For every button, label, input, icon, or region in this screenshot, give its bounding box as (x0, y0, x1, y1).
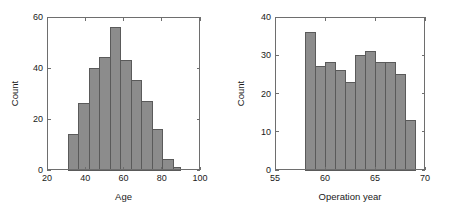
x-tick-label: 100 (192, 173, 207, 183)
y-tick-label: 40 (33, 63, 43, 73)
histogram-figure: 204060801000204060AgeCount 5560657001020… (0, 0, 449, 213)
histogram-bar (315, 67, 325, 170)
histogram-bar (142, 101, 153, 170)
histogram-bar (355, 55, 365, 170)
bars-group (68, 27, 181, 170)
x-tick-label: 70 (420, 173, 430, 183)
histogram-bar (305, 32, 315, 170)
y-axis-label: Count (9, 80, 20, 106)
y-axis-label: Count (235, 80, 246, 106)
histogram-bar (325, 63, 335, 170)
histogram-bar (163, 160, 174, 170)
y-tick-label: 20 (33, 114, 43, 124)
x-tick-label: 20 (42, 173, 52, 183)
x-axis-label: Age (115, 191, 132, 202)
histogram-bar (68, 134, 79, 170)
operation-year-histogram-svg: 55606570010203040Operation yearCount (224, 0, 449, 213)
histogram-bar (385, 63, 395, 170)
histogram-bar (131, 81, 142, 170)
x-tick-label: 80 (157, 173, 167, 183)
y-tick-label: 30 (261, 50, 271, 60)
y-tick-label: 0 (266, 165, 271, 175)
x-tick-label: 60 (118, 173, 128, 183)
x-tick-label: 55 (270, 173, 280, 183)
histogram-bar (405, 120, 415, 170)
chart-panel-age: 204060801000204060AgeCount (0, 0, 225, 213)
y-tick-label: 10 (261, 127, 271, 137)
histogram-bar (121, 60, 132, 170)
age-histogram-svg: 204060801000204060AgeCount (0, 0, 225, 213)
histogram-bar (100, 58, 111, 170)
chart-panel-operation-year: 55606570010203040Operation yearCount (224, 0, 449, 213)
histogram-bar (395, 74, 405, 170)
histogram-bar (89, 68, 100, 170)
histogram-bar (79, 104, 90, 170)
histogram-bar (110, 27, 121, 170)
histogram-bar (335, 71, 345, 170)
y-tick-label: 60 (33, 12, 43, 22)
x-axis-label: Operation year (319, 191, 382, 202)
x-tick-label: 65 (370, 173, 380, 183)
bars-group (305, 32, 415, 170)
histogram-bar (365, 51, 375, 170)
x-tick-label: 60 (320, 173, 330, 183)
y-tick-label: 20 (261, 89, 271, 99)
histogram-bar (345, 82, 355, 170)
y-tick-label: 40 (261, 12, 271, 22)
histogram-bar (152, 129, 163, 170)
x-tick-label: 40 (80, 173, 90, 183)
histogram-bar (375, 63, 385, 170)
y-tick-label: 0 (38, 165, 43, 175)
